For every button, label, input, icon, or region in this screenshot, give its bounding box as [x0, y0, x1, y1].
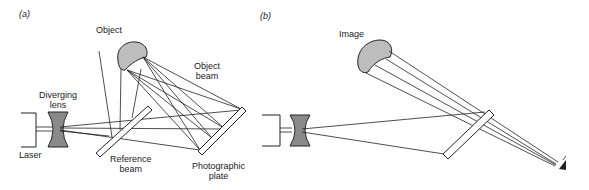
laser-icon — [21, 113, 36, 147]
diverging-lens-label: Diverging lens — [39, 90, 77, 110]
hologram-plate — [443, 110, 494, 159]
diverging-lens-label-line2: lens — [39, 100, 77, 110]
diverging-lens-icon — [48, 112, 68, 147]
reference-mirror — [96, 106, 152, 157]
photographic-plate-label-line1: Photographic — [192, 161, 245, 171]
panel-b — [262, 40, 566, 170]
reference-beam-label-line2: beam — [110, 164, 152, 174]
laser-label: Laser — [19, 150, 42, 160]
object-shape — [118, 42, 147, 70]
diverging-lens-label-line1: Diverging — [39, 90, 77, 100]
photographic-plate-label: Photographic plate — [192, 161, 245, 181]
object-beam-label: Object beam — [194, 61, 220, 81]
object-beam-label-line1: Object — [194, 61, 220, 71]
holography-diagram — [0, 0, 589, 190]
eye-icon — [559, 156, 566, 170]
object-beam-rays — [127, 57, 241, 150]
image-rays — [366, 51, 558, 166]
object-label: Object — [96, 25, 122, 35]
image-shape — [358, 40, 392, 73]
reference-beam-label: Reference beam — [110, 154, 152, 174]
reference-beam-label-line1: Reference — [110, 154, 152, 164]
panel-a-label: (a) — [19, 9, 30, 19]
image-label: Image — [339, 29, 364, 39]
photographic-plate-label-line2: plate — [192, 171, 245, 181]
object-beam-label-line2: beam — [194, 71, 220, 81]
diverging-lens-icon-b — [290, 115, 310, 146]
photographic-plate — [198, 107, 246, 155]
laser-icon-b — [262, 115, 280, 146]
panel-b-label: (b) — [260, 11, 271, 21]
